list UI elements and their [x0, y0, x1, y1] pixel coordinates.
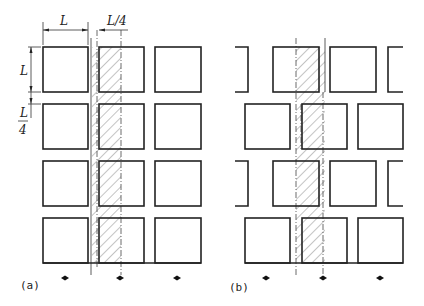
room-b-r3c3	[330, 161, 376, 206]
room-a-r2c3	[155, 104, 201, 149]
hatched-strip-b	[296, 47, 325, 263]
vgap-label-den: 4	[18, 123, 27, 137]
room-a-r4c1	[43, 218, 88, 263]
hatched-strip-a	[92, 47, 121, 263]
diagram-canvas: L L/4 L L 4 (a)	[0, 0, 424, 306]
panel-a: L L/4 L L 4 (a)	[18, 14, 201, 292]
marker-icon	[262, 276, 270, 281]
marker-icon	[376, 276, 384, 281]
caption-a: (a)	[20, 279, 40, 292]
room-a-r1c3	[155, 47, 201, 92]
panel-b: (b)	[229, 38, 403, 294]
marker-icon	[173, 276, 181, 281]
dim-gap-L4: L/4	[99, 14, 128, 32]
dim-height-L: L	[19, 47, 41, 92]
room-b-r3-partial-left	[235, 161, 248, 206]
room-a-r1c1	[43, 47, 88, 92]
room-b-r1c3	[330, 47, 376, 92]
marker-icon	[319, 276, 327, 281]
caption-b: (b)	[229, 281, 249, 294]
dim-vgap-L4: L 4	[18, 92, 41, 137]
vgap-label-num: L	[19, 106, 28, 120]
dim-width-L: L	[43, 14, 88, 45]
room-a-r3c1	[43, 161, 88, 206]
room-b-r1-partial-right	[388, 47, 403, 92]
room-b-r4c3	[358, 218, 403, 263]
gap-label: L/4	[106, 14, 127, 28]
room-a-r3c3	[155, 161, 201, 206]
room-b-r4c1	[245, 218, 290, 263]
height-label: L	[19, 64, 28, 78]
room-b-r2c3	[358, 104, 403, 149]
room-b-r1-partial-left	[235, 47, 248, 92]
room-b-r3-partial-right	[388, 161, 403, 206]
room-b-r2c1	[245, 104, 290, 149]
width-label: L	[59, 14, 68, 28]
marker-icon	[61, 276, 69, 281]
marker-icon	[116, 276, 124, 281]
room-a-r4c3	[155, 218, 201, 263]
room-a-r2c1	[43, 104, 88, 149]
